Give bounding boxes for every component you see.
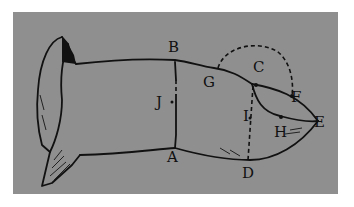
finger-diagram: A B C D E F G H I J <box>0 0 354 207</box>
point-H <box>279 115 283 119</box>
label-J: J <box>154 93 162 111</box>
label-H: H <box>274 123 287 141</box>
label-B: B <box>168 38 179 56</box>
label-C: C <box>253 58 264 76</box>
body-top-edge <box>76 59 252 84</box>
tip-upper <box>252 84 318 121</box>
label-I: I <box>243 107 249 125</box>
line-BA <box>175 62 176 148</box>
label-F: F <box>291 88 301 106</box>
point-I <box>249 117 252 120</box>
label-D: D <box>242 164 254 182</box>
nail-curve <box>252 84 318 121</box>
flap-dark-wedge <box>62 37 76 64</box>
point-C <box>254 83 258 87</box>
label-G: G <box>203 73 215 91</box>
label-A: A <box>166 148 178 166</box>
label-E: E <box>314 113 325 131</box>
point-J <box>171 101 174 104</box>
